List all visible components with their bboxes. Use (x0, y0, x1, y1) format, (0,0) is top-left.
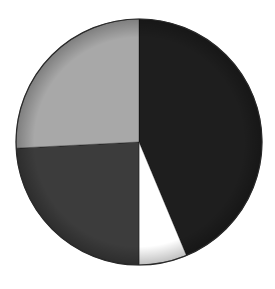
pie-shading (16, 19, 262, 265)
pie-slices (16, 19, 262, 265)
pie-chart (0, 0, 275, 289)
